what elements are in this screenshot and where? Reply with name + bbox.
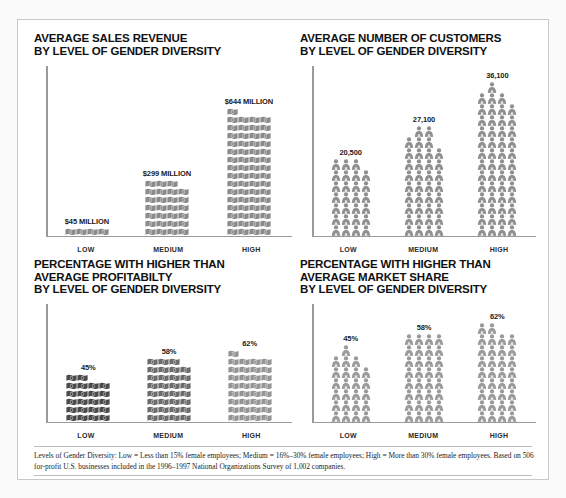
person-icon xyxy=(507,214,517,225)
bar-value-label: $644 MILLION xyxy=(225,97,273,106)
money-bill-icon xyxy=(238,148,249,156)
person-icon xyxy=(434,148,444,159)
x-axis-line xyxy=(312,422,536,424)
person-icon xyxy=(497,159,507,170)
icon-column xyxy=(487,323,497,422)
money-bill-icon xyxy=(239,374,250,382)
person-icon xyxy=(477,225,487,236)
person-icon xyxy=(404,367,414,378)
money-bill-icon xyxy=(249,132,260,140)
person-icon xyxy=(424,159,434,170)
money-bill-icon xyxy=(77,398,88,406)
person-icon xyxy=(361,378,371,389)
money-bill-icon xyxy=(167,220,178,228)
money-bill-icon xyxy=(261,366,272,374)
icon-column xyxy=(260,116,271,236)
money-bill-icon xyxy=(65,228,76,236)
person-icon xyxy=(487,389,497,400)
person-icon xyxy=(341,389,351,400)
money-bill-icon xyxy=(145,188,156,196)
person-icon xyxy=(434,345,444,356)
icon-stack xyxy=(404,126,444,236)
person-icon xyxy=(331,378,341,389)
money-bill-icon xyxy=(227,196,238,204)
icon-column xyxy=(180,366,191,422)
icon-stack xyxy=(331,345,371,422)
person-icon xyxy=(331,356,341,367)
person-icon xyxy=(477,159,487,170)
money-bill-icon xyxy=(167,196,178,204)
person-icon xyxy=(487,214,497,225)
money-bill-icon xyxy=(180,414,191,422)
person-icon xyxy=(497,115,507,126)
person-icon xyxy=(341,225,351,236)
money-bill-icon xyxy=(238,172,249,180)
money-bill-icon xyxy=(260,188,271,196)
person-icon xyxy=(331,400,341,411)
money-bill-icon xyxy=(178,196,189,204)
chart-customers: 20,50027,10036,100 xyxy=(300,66,536,237)
money-bill-icon xyxy=(250,414,261,422)
icon-column xyxy=(99,382,110,422)
category-label-high: HIGH xyxy=(490,432,509,439)
bar-area: 45%58%62% xyxy=(314,304,534,422)
icon-column xyxy=(239,358,250,422)
person-icon xyxy=(477,345,487,356)
bar-group-high: 36,100 xyxy=(477,71,517,236)
icon-column xyxy=(156,180,167,236)
bar-value-label: 45% xyxy=(81,363,96,372)
icon-column xyxy=(414,126,424,236)
money-bill-icon xyxy=(249,116,260,124)
money-bill-icon xyxy=(238,180,249,188)
icon-column xyxy=(227,108,238,236)
money-bill-icon xyxy=(169,414,180,422)
person-icon xyxy=(507,400,517,411)
bar-group-low: 20,500 xyxy=(331,148,371,236)
money-bill-icon xyxy=(260,212,271,220)
money-bill-icon xyxy=(260,156,271,164)
person-icon xyxy=(404,378,414,389)
person-icon xyxy=(404,137,414,148)
person-icon xyxy=(497,367,507,378)
money-bill-icon xyxy=(260,116,271,124)
money-bill-icon xyxy=(167,180,178,188)
person-icon xyxy=(361,367,371,378)
money-bill-icon xyxy=(261,398,272,406)
money-bill-icon xyxy=(261,406,272,414)
money-bill-icon xyxy=(250,398,261,406)
person-icon xyxy=(477,356,487,367)
money-bill-icon xyxy=(158,414,169,422)
money-bill-icon xyxy=(227,164,238,172)
money-bill-icon xyxy=(260,220,271,228)
money-bill-icon xyxy=(238,156,249,164)
person-icon xyxy=(487,148,497,159)
category-label-high: HIGH xyxy=(242,246,261,253)
person-icon xyxy=(361,181,371,192)
money-bill-icon xyxy=(180,382,191,390)
panel-percentage-higher-profitability: PERCENTAGE WITH HIGHER THAN AVERAGE PROF… xyxy=(34,258,292,443)
person-icon xyxy=(497,356,507,367)
person-icon xyxy=(424,334,434,345)
bar-area: 20,50027,10036,100 xyxy=(314,66,534,236)
icon-column xyxy=(238,116,249,236)
money-bill-icon xyxy=(169,374,180,382)
person-icon xyxy=(361,225,371,236)
money-bill-icon xyxy=(239,382,250,390)
money-bill-icon xyxy=(238,124,249,132)
person-icon xyxy=(331,203,341,214)
person-icon xyxy=(487,203,497,214)
person-icon xyxy=(404,159,414,170)
category-axis-market-share: LOWMEDIUMHIGH xyxy=(314,432,534,439)
person-icon xyxy=(404,389,414,400)
person-icon xyxy=(414,181,424,192)
person-icon xyxy=(507,389,517,400)
person-icon xyxy=(487,115,497,126)
icon-column xyxy=(434,148,444,236)
person-icon xyxy=(414,159,424,170)
person-icon xyxy=(361,203,371,214)
person-icon xyxy=(414,389,424,400)
money-bill-icon xyxy=(98,228,109,236)
person-icon xyxy=(497,400,507,411)
icon-column xyxy=(261,358,272,422)
person-icon xyxy=(341,159,351,170)
